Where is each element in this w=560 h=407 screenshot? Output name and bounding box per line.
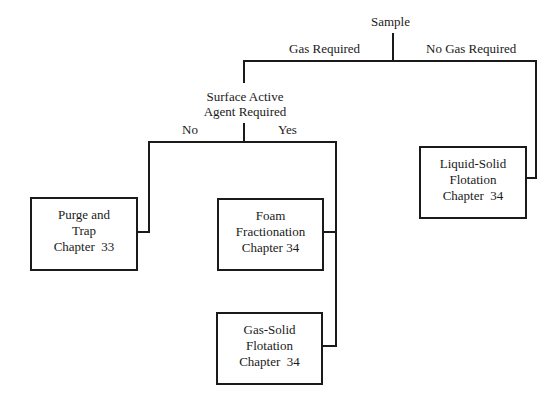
decision-label: Surface Active Agent Required bbox=[193, 89, 297, 119]
no-branch-stem bbox=[148, 141, 150, 233]
no-gas-required-stem bbox=[535, 60, 537, 179]
box-foam-fractionation: Foam Fractionation Chapter 34 bbox=[217, 198, 324, 271]
top-branch-line bbox=[243, 60, 537, 62]
box-line: Foam bbox=[256, 208, 286, 224]
box-liquid-solid-flotation: Liquid-Solid Flotation Chapter 34 bbox=[419, 146, 527, 219]
branch-label-gas-required: Gas Required bbox=[289, 41, 360, 56]
box-line: Liquid-Solid bbox=[440, 156, 506, 172]
root-stem bbox=[392, 33, 394, 61]
branch-label-no-gas-required: No Gas Required bbox=[426, 41, 516, 56]
box-line: Fractionation bbox=[236, 224, 305, 240]
box-line: Chapter 34 bbox=[443, 188, 504, 204]
gas-solid-connector bbox=[321, 345, 337, 347]
box-line: Flotation bbox=[450, 172, 497, 188]
box-gas-solid-flotation: Gas-Solid Flotation Chapter 34 bbox=[216, 312, 323, 385]
foam-connector bbox=[322, 231, 337, 233]
box-line: Gas-Solid bbox=[244, 322, 296, 338]
box-purge-and-trap: Purge and Trap Chapter 33 bbox=[30, 197, 138, 271]
purge-trap-connector bbox=[136, 231, 150, 233]
branch-label-yes: Yes bbox=[278, 122, 297, 137]
decision-stem bbox=[243, 123, 245, 143]
decision-line1: Surface Active bbox=[193, 89, 297, 104]
box-line: Flotation bbox=[246, 338, 293, 354]
decision-line2: Agent Required bbox=[193, 104, 297, 119]
gas-required-stem bbox=[243, 60, 245, 83]
root-label-sample: Sample bbox=[371, 14, 410, 29]
decision-branch-line bbox=[148, 141, 337, 143]
box-line: Chapter 33 bbox=[54, 239, 115, 255]
yes-branch-stem bbox=[335, 141, 337, 347]
box-line: Trap bbox=[72, 223, 96, 239]
box-line: Purge and bbox=[58, 207, 110, 223]
box-line: Chapter 34 bbox=[239, 354, 300, 370]
box-line: Chapter 34 bbox=[242, 240, 299, 256]
branch-label-no: No bbox=[182, 122, 198, 137]
